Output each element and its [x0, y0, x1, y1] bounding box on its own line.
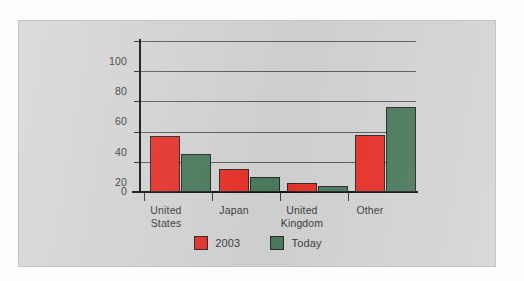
y-axis-label-100: 100: [87, 55, 127, 67]
bar-today-united-states[interactable]: [181, 154, 211, 192]
x-axis-label-line1: Other: [326, 204, 414, 217]
x-axis-tick-1: [212, 193, 213, 201]
gridline-40: [140, 132, 416, 133]
x-axis-tick-0: [144, 193, 145, 201]
bar-2003-united-states[interactable]: [150, 136, 180, 192]
x-axis-label-line2: States: [122, 217, 210, 230]
legend-item-today[interactable]: Today: [270, 236, 321, 250]
x-axis-tick-2: [280, 193, 281, 201]
y-axis-label-60: 60: [87, 115, 127, 127]
bar-today-japan[interactable]: [250, 177, 280, 192]
bar-2003-united-kingdom[interactable]: [287, 183, 317, 192]
y-axis-label-40: 40: [87, 146, 127, 158]
gridline-80: [140, 71, 416, 72]
chart-legend: 2003 Today: [19, 236, 497, 250]
y-axis-label-80: 80: [87, 85, 127, 97]
legend-swatch-today: [270, 236, 284, 250]
y-axis-line: [139, 39, 141, 193]
gridline-100: [140, 41, 416, 42]
chart-panel: 100 80 60 40 20 0: [18, 20, 496, 267]
legend-item-2003[interactable]: 2003: [194, 236, 240, 250]
legend-label-today: Today: [291, 237, 321, 249]
legend-swatch-2003: [194, 236, 208, 250]
y-axis-label-0: 0: [87, 185, 127, 197]
x-axis-label-other: Other: [326, 204, 414, 217]
gridline-60: [140, 101, 416, 102]
plot-area: 100 80 60 40 20 0: [19, 21, 497, 268]
x-axis-label-line2: Kingdom: [258, 217, 346, 230]
bar-today-united-kingdom[interactable]: [318, 186, 348, 192]
x-axis-tick-3: [348, 193, 349, 201]
bar-today-other[interactable]: [386, 107, 416, 192]
legend-label-2003: 2003: [215, 237, 240, 249]
bar-2003-japan[interactable]: [219, 169, 249, 192]
scanned-page: 100 80 60 40 20 0: [0, 0, 524, 281]
bar-2003-other[interactable]: [355, 135, 385, 192]
